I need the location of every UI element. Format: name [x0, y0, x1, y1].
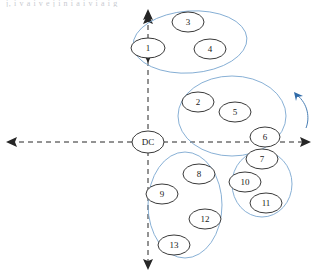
horizontal-axis-left-arrowhead	[6, 137, 17, 147]
node-1[interactable]: 1	[131, 38, 165, 58]
node-2-label: 2	[196, 97, 201, 107]
node-5-label: 5	[233, 107, 238, 117]
node-8-label: 8	[197, 169, 202, 179]
node-7-label: 7	[260, 154, 265, 164]
node-6[interactable]: 6	[250, 127, 280, 147]
node-9-label: 9	[160, 189, 165, 199]
node-10[interactable]: 10	[229, 172, 261, 192]
node-11[interactable]: 11	[250, 193, 282, 213]
node-4[interactable]: 4	[194, 39, 226, 59]
node-12[interactable]: 12	[189, 209, 221, 229]
diagram-canvas: 1 3 4 2 5 6 7	[0, 0, 321, 275]
node-11-label: 11	[262, 198, 271, 208]
node-10-label: 10	[241, 177, 251, 187]
node-4-label: 4	[208, 44, 213, 54]
node-3[interactable]: 3	[172, 12, 204, 32]
node-8[interactable]: 8	[183, 164, 215, 184]
node-12-label: 12	[201, 214, 210, 224]
phasor-cluster-diagram: j, i v a i v e j i n i a i v i a i g	[0, 0, 321, 275]
node-3-label: 3	[186, 17, 191, 27]
rotation-arrow-group	[294, 92, 308, 128]
node-13-label: 13	[170, 240, 180, 250]
node-2[interactable]: 2	[182, 92, 214, 112]
node-13[interactable]: 13	[158, 235, 190, 255]
origin-label: DC	[142, 137, 155, 147]
node-1-label: 1	[146, 43, 151, 53]
node-9[interactable]: 9	[146, 184, 178, 204]
origin-node[interactable]: DC	[132, 131, 164, 153]
node-7[interactable]: 7	[246, 149, 278, 169]
counterclockwise-rotation-arrow	[297, 95, 308, 128]
node-6-label: 6	[263, 132, 268, 142]
node-5[interactable]: 5	[219, 102, 251, 122]
